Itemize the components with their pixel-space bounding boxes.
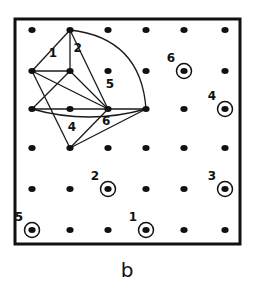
region-label: 6	[102, 114, 110, 128]
circled-point-label: 6	[167, 51, 175, 65]
grid-dot	[28, 68, 35, 74]
grid-dot	[180, 106, 187, 112]
grid-dot	[66, 106, 73, 112]
grid-dot	[104, 68, 111, 74]
grid-dot	[104, 27, 111, 33]
region-label: 2	[73, 41, 81, 55]
diagram-labels: 12546	[49, 41, 114, 133]
grid-dot	[66, 186, 73, 192]
figure-panel: 642351 12546 b	[0, 0, 255, 298]
grid-dot	[180, 227, 187, 233]
grid-dot	[221, 68, 228, 74]
grid-dot	[142, 27, 149, 33]
grid-dot	[104, 106, 111, 112]
circled-point-label: 1	[129, 210, 137, 224]
grid-dot	[221, 227, 228, 233]
grid-dot	[221, 145, 228, 151]
grid-dot	[142, 227, 149, 233]
region-label: 4	[68, 120, 76, 134]
grid-dot	[104, 227, 111, 233]
grid-dot	[66, 145, 73, 151]
grid-dot	[104, 145, 111, 151]
grid-dot	[66, 27, 73, 33]
grid-dot	[104, 186, 111, 192]
grid-dot	[28, 227, 35, 233]
grid-dot	[142, 106, 149, 112]
grid-dot	[66, 68, 73, 74]
grid-dot	[142, 68, 149, 74]
circled-point-label: 2	[91, 169, 99, 183]
grid-dot	[180, 68, 187, 74]
grid-dot	[28, 186, 35, 192]
grid-dot	[180, 27, 187, 33]
region-label: 1	[49, 46, 57, 60]
diagram-edge	[32, 71, 70, 109]
panel-label: b	[121, 258, 134, 282]
grid-dot	[66, 227, 73, 233]
diagram-edge	[32, 71, 108, 109]
diagram-edge	[32, 109, 146, 117]
circled-point-label: 5	[15, 210, 23, 224]
grid-dot	[28, 27, 35, 33]
grid-dot	[142, 186, 149, 192]
grid-dot	[142, 145, 149, 151]
grid-dot	[180, 186, 187, 192]
diagram-edge	[70, 71, 108, 109]
grid-dot	[221, 106, 228, 112]
grid-dot	[221, 186, 228, 192]
grid-dot	[28, 106, 35, 112]
grid-dot	[180, 145, 187, 151]
circled-point-label: 4	[208, 89, 216, 103]
grid-dot	[221, 27, 228, 33]
region-label: 5	[106, 77, 114, 91]
grid-dot	[28, 145, 35, 151]
circled-point-label: 3	[208, 169, 216, 183]
